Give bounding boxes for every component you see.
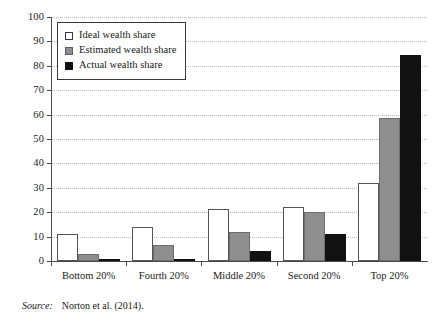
y-axis-tick: [47, 41, 51, 42]
legend-item: Actual wealth share: [65, 58, 176, 73]
y-axis-tick: [47, 139, 51, 140]
bar-ideal: [208, 209, 229, 261]
y-axis-tick: [47, 66, 51, 67]
y-axis-tick: [47, 90, 51, 91]
y-axis-tick: [47, 17, 51, 18]
x-axis-tick: [201, 261, 276, 266]
bar-ideal: [283, 207, 304, 261]
y-axis-labels: 0102030405060708090100: [0, 17, 44, 261]
bar-ideal: [57, 234, 78, 261]
x-axis-tick: [352, 261, 427, 266]
y-axis-tick-label: 80: [33, 61, 44, 72]
bar-ideal: [132, 227, 153, 261]
y-axis-tick: [47, 188, 51, 189]
legend-swatch-actual: [65, 62, 73, 70]
x-axis-tick-label: Second 20%: [277, 270, 352, 282]
source-text: Norton et al. (2014).: [62, 300, 144, 311]
bar-estimated: [229, 232, 250, 261]
bar-actual: [325, 234, 346, 261]
legend-swatch-ideal: [65, 32, 73, 40]
x-axis-tick-label: Top 20%: [352, 270, 427, 282]
bar-group: [201, 17, 276, 261]
x-axis-tick: [126, 261, 201, 266]
bar-group: [277, 17, 352, 261]
source-label: Source:: [22, 300, 53, 311]
y-axis-tick: [47, 237, 51, 238]
bar-ideal: [358, 183, 379, 261]
y-axis-tick-label: 40: [33, 158, 44, 169]
x-axis-tick-label: Middle 20%: [201, 270, 276, 282]
y-axis-tick: [47, 261, 51, 262]
y-axis-tick-label: 70: [33, 85, 44, 96]
legend-item: Estimated wealth share: [65, 43, 176, 58]
legend-item-label: Actual wealth share: [79, 60, 162, 71]
bar-estimated: [153, 245, 174, 261]
legend-item: Ideal wealth share: [65, 28, 176, 43]
bar-actual: [250, 251, 271, 261]
figure: 0102030405060708090100 Bottom 20%Fourth …: [0, 0, 439, 322]
x-axis-tick-label: Fourth 20%: [126, 270, 201, 282]
legend-swatch-estimated: [65, 47, 73, 55]
legend-item-label: Estimated wealth share: [79, 45, 176, 56]
y-axis-tick-label: 50: [33, 134, 44, 145]
y-axis-tick-label: 20: [33, 207, 44, 218]
y-axis-tick-label: 10: [33, 231, 44, 242]
y-axis-tick-label: 100: [28, 12, 44, 23]
y-axis-tick: [47, 163, 51, 164]
x-axis-ticks: [51, 261, 427, 266]
x-axis-labels: Bottom 20%Fourth 20%Middle 20%Second 20%…: [51, 270, 427, 282]
y-axis-tick-label: 0: [39, 256, 44, 267]
y-axis-tick: [47, 115, 51, 116]
y-axis-tick-label: 60: [33, 109, 44, 120]
x-axis-tick-label: Bottom 20%: [51, 270, 126, 282]
source-note: Source:Norton et al. (2014).: [22, 300, 144, 312]
bar-estimated: [304, 212, 325, 261]
x-axis-tick: [51, 261, 126, 266]
y-axis-tick: [47, 212, 51, 213]
legend-item-label: Ideal wealth share: [79, 30, 155, 41]
x-axis-tick: [277, 261, 352, 266]
y-axis-tick-label: 30: [33, 183, 44, 194]
bar-actual: [400, 55, 421, 261]
y-axis-line: [51, 17, 52, 262]
bar-estimated: [379, 118, 400, 261]
y-axis-tick-label: 90: [33, 36, 44, 47]
chart-legend: Ideal wealth shareEstimated wealth share…: [57, 22, 186, 80]
bar-group: [352, 17, 427, 261]
bar-estimated: [78, 254, 99, 261]
